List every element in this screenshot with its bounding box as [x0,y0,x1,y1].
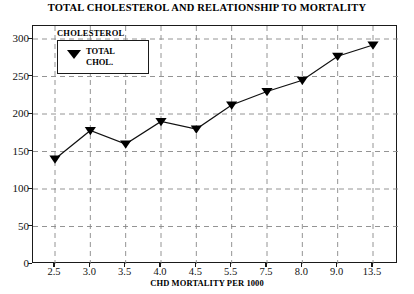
x-axis-tick-label: 2.5 [34,266,74,277]
y-axis-tick-mark [28,188,32,189]
x-axis-tick-mark [89,263,90,267]
y-axis-tick-label: 50 [0,220,29,232]
x-axis-tick-label: 3.0 [69,266,109,277]
data-point-marker [261,88,272,96]
data-point-marker [191,125,202,133]
y-axis-tick-mark [28,263,32,264]
x-axis-tick-mark [159,263,160,267]
y-axis-tick-mark [28,150,32,151]
y-axis-tick-label: 0 [0,257,29,269]
triangle-down-icon [67,50,81,59]
y-axis-tick-label: 300 [0,32,29,44]
y-axis-tick-mark [28,225,32,226]
x-axis-tick-label: 7.5 [246,266,286,277]
x-axis-tick-mark [230,263,231,267]
y-axis-tick-label: 200 [0,107,29,119]
x-axis-tick-mark [195,263,196,267]
x-axis-tick-mark [371,263,372,267]
legend-title: CHOLESTEROL [57,28,124,38]
chart-title: TOTAL CHOLESTEROL AND RELATIONSHIP TO MO… [0,2,414,13]
cholesterol-mortality-chart: TOTAL CHOLESTEROL AND RELATIONSHIP TO MO… [0,0,414,294]
x-axis-tick-label: 13.5 [352,266,392,277]
x-axis-tick-mark [301,263,302,267]
y-axis-tick-mark [28,113,32,114]
y-axis-tick-label: 150 [0,145,29,157]
legend-entry-label: TOTAL CHOL. [86,46,115,67]
x-axis-tick-mark [265,263,266,267]
x-axis-tick-label: 5.5 [211,266,251,277]
x-axis-tick-label: 4.0 [140,266,180,277]
x-axis-title: CHD MORTALITY PER 1000 [0,278,414,288]
x-axis-tick-mark [336,263,337,267]
x-axis-tick-label: 3.5 [105,266,145,277]
data-point-marker [226,101,237,109]
x-axis-tick-mark [124,263,125,267]
x-axis-tick-label: 9.0 [317,266,357,277]
x-axis-tick-mark [53,263,54,267]
legend-box: TOTAL CHOL. [57,40,149,74]
y-axis-tick-label: 250 [0,70,29,82]
data-point-marker [120,140,131,148]
y-axis-tick-mark [28,75,32,76]
data-point-marker [49,155,60,163]
y-axis-tick-mark [28,38,32,39]
data-point-marker [332,53,343,61]
y-axis-tick-label: 100 [0,182,29,194]
x-axis-tick-label: 8.0 [281,266,321,277]
x-axis-tick-label: 4.5 [175,266,215,277]
